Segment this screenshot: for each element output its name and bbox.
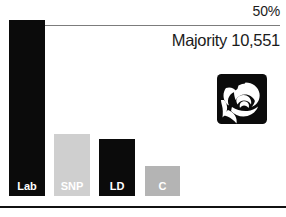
bar-lab: Lab — [9, 20, 45, 196]
bottom-divider — [0, 206, 286, 208]
bar-label-c: C — [145, 181, 180, 192]
bar-c: C — [145, 166, 180, 196]
threshold-label: 50% — [253, 4, 280, 18]
chart-plot-area: 50% Majority 10,551 Lab SNP LD C — [0, 0, 286, 200]
majority-label: Majority 10,551 — [172, 32, 280, 49]
threshold-line-50-percent — [45, 25, 280, 26]
bar-label-snp: SNP — [54, 181, 90, 192]
labour-rose-logo — [217, 74, 267, 124]
bar-label-lab: Lab — [9, 181, 45, 192]
election-result-bar-chart: 50% Majority 10,551 Lab SNP LD C — [0, 0, 286, 217]
bar-ld: LD — [99, 139, 135, 196]
bar-label-ld: LD — [99, 181, 135, 192]
bar-snp: SNP — [54, 134, 90, 196]
